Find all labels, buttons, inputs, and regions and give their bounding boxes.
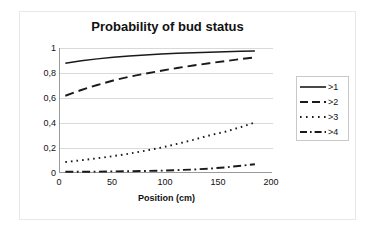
y-tick-label-2: 0,4 <box>28 118 56 128</box>
legend-label-1: >2 <box>327 97 338 107</box>
legend-item-0: >1 <box>299 80 348 93</box>
legend-item-3: >4 <box>299 125 348 138</box>
y-tick-label-5: 1 <box>28 43 56 53</box>
legend-item-1: >2 <box>299 95 348 108</box>
series-line->1 <box>65 51 255 63</box>
legend-label-3: >4 <box>327 127 338 137</box>
y-tick-label-1: 0,2 <box>28 143 56 153</box>
legend-swatch-dotted <box>299 112 327 122</box>
x-tick-label-1: 50 <box>97 177 127 187</box>
gridlines <box>60 49 273 149</box>
x-axis-title: Position (cm) <box>60 193 273 203</box>
y-tick-label-3: 0,6 <box>28 93 56 103</box>
legend-swatch-dashed <box>299 97 327 107</box>
plot-svg <box>60 48 273 173</box>
chart-figure: Probability of bud status Probability 1 … <box>0 0 375 231</box>
x-tick-label-4: 200 <box>256 177 286 187</box>
legend-swatch-solid <box>299 82 327 92</box>
legend: >1 >2 >3 >4 <box>296 76 349 141</box>
legend-swatch-dashdot <box>299 127 327 137</box>
x-tick-label-3: 150 <box>203 177 233 187</box>
x-tick-label-0: 0 <box>44 177 74 187</box>
plot-area <box>59 48 272 173</box>
series-line->4 <box>65 164 255 172</box>
chart-title: Probability of bud status <box>60 20 275 34</box>
legend-item-2: >3 <box>299 110 348 123</box>
legend-label-2: >3 <box>327 112 338 122</box>
series-lines <box>65 51 255 172</box>
series-line->3 <box>65 122 255 162</box>
legend-label-0: >1 <box>327 82 338 92</box>
x-tick-label-2: 100 <box>150 177 180 187</box>
series-line->2 <box>65 57 255 95</box>
y-tick-label-4: 0,8 <box>28 68 56 78</box>
